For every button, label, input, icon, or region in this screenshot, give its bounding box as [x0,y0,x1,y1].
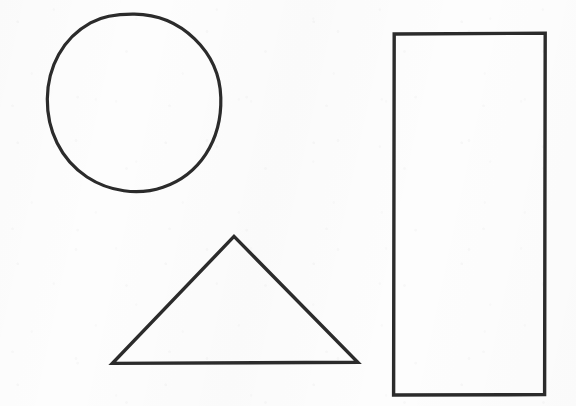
rectangle-shape [394,33,546,395]
shapes-layer [0,0,576,406]
triangle-shape [112,236,357,363]
circle-shape [47,14,221,191]
drawing-canvas [0,0,576,406]
